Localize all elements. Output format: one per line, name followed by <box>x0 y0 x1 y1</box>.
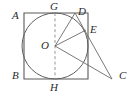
figure-canvas <box>0 0 138 97</box>
vertex-label-h: H <box>50 82 58 93</box>
geometry-figure: A B C D E G H O <box>0 0 138 97</box>
vertex-label-a: A <box>12 10 19 21</box>
vertex-label-d: D <box>78 6 86 17</box>
vertex-label-e: E <box>90 24 97 35</box>
segment-oc <box>55 46 112 79</box>
vertex-label-g: G <box>50 1 58 12</box>
vertex-label-o: O <box>41 40 49 51</box>
vertex-label-b: B <box>12 70 19 81</box>
vertex-label-c: C <box>119 70 126 81</box>
